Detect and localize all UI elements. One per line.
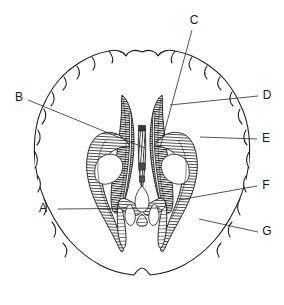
label-C: C — [190, 13, 199, 27]
label-A: A — [39, 201, 47, 215]
label-G: G — [262, 224, 271, 238]
label-D: D — [263, 88, 272, 102]
label-F: F — [262, 178, 269, 192]
brain-ventricles-illustration: A B C D E F G — [0, 0, 284, 305]
midline-node-lower — [139, 176, 144, 182]
label-B: B — [15, 90, 23, 104]
anatomical-figure: A B C D E F G — [0, 0, 284, 305]
label-E: E — [262, 131, 270, 145]
interthalamic-adhesion — [138, 126, 145, 132]
midline-node-mid — [139, 163, 145, 170]
